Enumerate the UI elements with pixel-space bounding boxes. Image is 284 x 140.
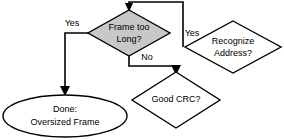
edge-label-yes-left: Yes xyxy=(65,18,80,28)
recognize-address-label-line1: Recognize xyxy=(212,36,255,46)
frame-too-long-label-line2: Long? xyxy=(116,34,141,44)
done-oversized-frame-ellipse xyxy=(3,95,127,137)
done-label-line2: Oversized Frame xyxy=(30,117,99,127)
frame-too-long-label-line1: Frame too xyxy=(108,22,149,32)
node-done-oversized-frame[interactable]: Done: Oversized Frame xyxy=(3,95,127,137)
recognize-address-label-line2: Address? xyxy=(214,48,252,58)
edge-label-no: No xyxy=(141,52,153,62)
flowchart-canvas: Frame too Long? Recognize Address? Good … xyxy=(0,0,284,140)
frame-too-long-diamond xyxy=(88,10,170,56)
node-good-crc[interactable]: Good CRC? xyxy=(132,72,220,128)
good-crc-label: Good CRC? xyxy=(151,94,200,104)
edge-label-yes-right: Yes xyxy=(185,28,200,38)
recognize-address-diamond xyxy=(185,21,281,73)
connector-yes-to-done xyxy=(65,33,88,89)
done-label-line1: Done: xyxy=(53,104,77,114)
node-recognize-address[interactable]: Recognize Address? xyxy=(185,21,281,73)
flowchart-svg: Frame too Long? Recognize Address? Good … xyxy=(0,0,284,140)
node-frame-too-long[interactable]: Frame too Long? xyxy=(88,10,170,56)
